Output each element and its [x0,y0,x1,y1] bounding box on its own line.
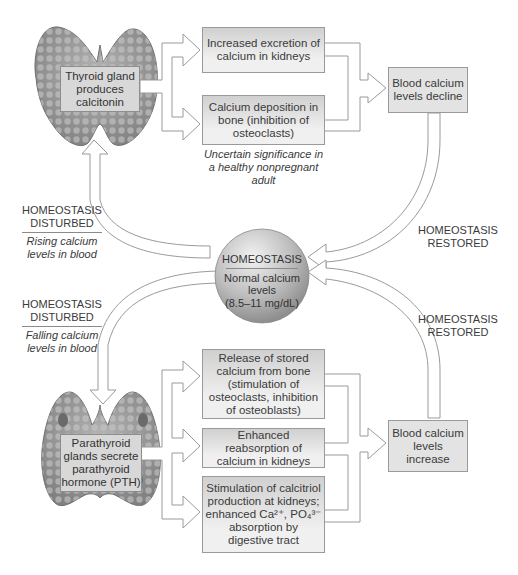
homeostasis-restored-bottom: HOMEOSTASIS RESTORED [418,313,498,339]
divider [22,232,102,233]
homeostasis-center-text: HOMEOSTASIS Normal calcium levels (8.5–1… [222,253,302,309]
effect-box-calcitriol: Stimulation of calcitriol production at … [202,476,325,553]
effect-box-bone-release: Release of stored calcium from bone (sti… [202,349,325,419]
homeostasis-restored-top: HOMEOSTASIS RESTORED [418,224,498,250]
effect-box-kidney-reabsorption: Enhanced reabsorption of calcium in kidn… [202,428,325,468]
effect-box-bone-deposition: Calcium deposition in bone (inhibition o… [202,95,325,145]
thyroid-label: Thyroid gland produces calcitonin [60,66,140,112]
homeostasis-disturbed-falling: HOMEOSTASIS DISTURBED Falling calcium le… [22,298,102,355]
divider [226,268,298,269]
result-box-calcium-increase: Blood calcium levels increase [388,420,468,472]
parathyroid-label: Parathyroid glands secrete parathyroid h… [60,434,142,492]
uncertain-significance-note: Uncertain significance in a healthy nonp… [200,148,327,187]
divider [22,326,102,327]
result-box-calcium-decline: Blood calcium levels decline [388,67,468,113]
effect-box-kidney-excretion: Increased excretion of calcium in kidney… [202,27,325,73]
homeostasis-disturbed-rising: HOMEOSTASIS DISTURBED Rising calcium lev… [22,204,102,261]
